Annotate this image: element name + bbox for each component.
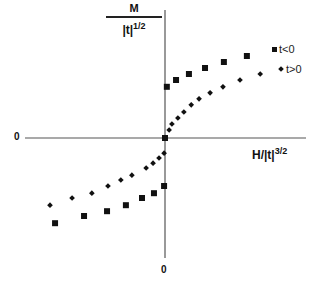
y-label-denominator: |t|1/2 [122, 23, 145, 37]
origin-point [162, 135, 168, 141]
x-axis-label: H/|t|3/2 [252, 146, 287, 162]
square-point [123, 202, 129, 208]
x-zero-tick-label: 0 [161, 264, 167, 275]
diamond-point [118, 177, 124, 183]
diamond-point [169, 121, 175, 127]
diamond-point [237, 77, 243, 83]
y-label-exponent: 1/2 [133, 21, 146, 31]
diamond-point [220, 84, 226, 90]
diamond-point [89, 190, 95, 196]
diamond-point [47, 202, 53, 208]
y-axis-label: M |t|1/2 [104, 2, 164, 38]
square-point [81, 213, 87, 219]
legend-label: t<0 [279, 43, 295, 55]
square-point [173, 77, 179, 83]
square-marker-icon [272, 47, 277, 52]
diamond-point [196, 96, 202, 102]
diamond-point [188, 102, 194, 108]
y-zero-tick-label: 0 [14, 131, 20, 142]
diamond-point [257, 71, 263, 77]
diamond-point [129, 172, 135, 178]
square-point [52, 220, 58, 226]
y-label-numerator: M [104, 2, 164, 15]
square-point [202, 65, 208, 71]
diamond-point [181, 109, 187, 115]
square-point [151, 190, 157, 196]
y-label-den-text: |t| [122, 23, 133, 37]
x-label-base: H/|t| [252, 148, 275, 162]
diamond-point [156, 155, 162, 161]
diamond-point [166, 127, 172, 133]
square-point [186, 71, 192, 77]
diamond-point [105, 183, 111, 189]
square-point [244, 53, 250, 59]
diamond-point [69, 195, 75, 201]
square-point [221, 59, 227, 65]
legend-item-t-neg: t<0 [272, 43, 295, 55]
square-point [104, 208, 110, 214]
square-point [139, 195, 145, 201]
legend-label: t>0 [286, 63, 302, 75]
diamond-marker-icon [278, 66, 284, 72]
legend-item-t-pos: t>0 [278, 63, 302, 75]
scatter-plot [0, 0, 316, 287]
diamond-point [150, 160, 156, 166]
data-points [47, 53, 263, 226]
fraction-bar [106, 16, 162, 18]
diamond-point [143, 165, 149, 171]
square-point [164, 84, 170, 90]
diamond-point [207, 90, 213, 96]
diamond-point [175, 115, 181, 121]
diamond-point [161, 150, 167, 156]
x-label-exponent: 3/2 [275, 146, 288, 156]
square-point [161, 183, 167, 189]
